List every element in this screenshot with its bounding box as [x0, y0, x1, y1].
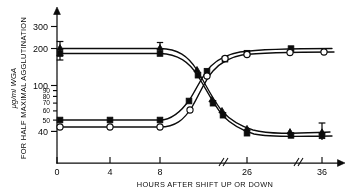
- x-tick-label: 26: [242, 167, 252, 177]
- y-tick-label: 60: [43, 107, 51, 114]
- data-marker: [195, 72, 201, 78]
- figure-container: 300 200 100 90 80 70 60 50 40 0: [0, 0, 352, 194]
- data-marker: [157, 51, 163, 57]
- data-marker: [57, 51, 63, 57]
- data-marker: [288, 133, 294, 139]
- data-marker: [319, 133, 325, 139]
- x-tick-marks: [57, 157, 322, 163]
- y-tick-label: 50: [42, 117, 50, 124]
- chart-plot: 300 200 100 90 80 70 60 50 40 0: [0, 0, 352, 194]
- data-marker: [222, 55, 228, 61]
- y-axis-title-main: FOR HALF MAXIMAL AGGLUTINATION: [19, 17, 28, 159]
- data-marker: [204, 73, 210, 79]
- data-marker: [157, 45, 163, 50]
- data-marker: [107, 124, 113, 130]
- data-marker: [210, 100, 216, 106]
- y-tick-label: 300: [33, 22, 48, 32]
- y-tick-label: 200: [33, 44, 48, 54]
- x-axis-arrowhead: [338, 160, 346, 167]
- data-marker: [57, 124, 63, 130]
- y-axis-title-units: μg/ml WGA: [9, 68, 18, 110]
- y-tick-label: 40: [38, 127, 48, 137]
- series-shift-up-upper: [57, 46, 332, 123]
- data-marker: [157, 124, 163, 130]
- data-marker: [57, 117, 63, 123]
- data-marker: [287, 49, 293, 55]
- data-marker: [187, 107, 193, 113]
- y-axis-arrowhead: [54, 7, 61, 15]
- y-tick-labels: 300 200 100 90 80 70 60 50 40: [33, 22, 50, 137]
- data-marker: [186, 98, 192, 104]
- data-marker: [157, 117, 163, 123]
- data-marker: [220, 112, 226, 118]
- x-tick-label: 8: [157, 167, 162, 177]
- x-axis-title: HOURS AFTER SHIFT UP OR DOWN: [137, 180, 273, 189]
- x-tick-labels: 0 4 8 26 36: [54, 167, 327, 177]
- x-tick-label: 36: [317, 167, 327, 177]
- x-tick-label: 4: [107, 167, 112, 177]
- x-tick-label: 0: [54, 167, 59, 177]
- y-tick-label: 70: [43, 99, 51, 106]
- data-marker: [244, 130, 250, 136]
- y-tick-marks: [51, 27, 57, 132]
- data-marker: [107, 117, 113, 123]
- x-axis-break-marks: [219, 158, 303, 166]
- data-marker: [321, 49, 327, 55]
- data-marker: [244, 51, 250, 57]
- series-shift-down-upper: [57, 42, 330, 141]
